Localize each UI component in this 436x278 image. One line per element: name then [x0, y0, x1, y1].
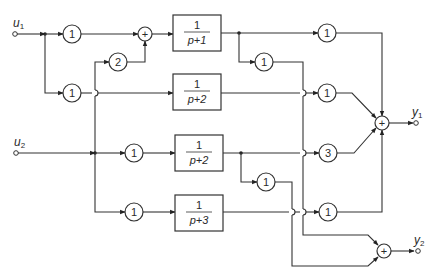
svg-text:p+1: p+1 [187, 34, 207, 46]
sum-junction-y2: + [377, 244, 391, 258]
input-label-u1: u1 [13, 16, 25, 31]
output-y2: y2 [413, 233, 425, 253]
input-terminal-u2 [14, 151, 19, 156]
svg-text:3: 3 [325, 147, 331, 159]
svg-text:1: 1 [196, 139, 202, 151]
wire-hop [303, 90, 306, 96]
svg-text:1: 1 [69, 28, 75, 40]
sum-junction-y1: + [375, 116, 389, 130]
svg-text:1: 1 [194, 19, 200, 31]
wire [127, 41, 145, 62]
wire [337, 128, 376, 153]
gain-block2-y1: 1 [318, 84, 336, 102]
wire [45, 34, 63, 93]
gain-block3-y1: 3 [319, 144, 337, 162]
wire [292, 215, 378, 266]
input-u1: u1 [13, 16, 25, 36]
wire [95, 62, 109, 90]
svg-text:1: 1 [194, 78, 200, 90]
gain-u2-sum: 2 [109, 53, 127, 71]
svg-text:1: 1 [196, 199, 202, 211]
sum-junction-input: + [138, 27, 152, 41]
wire [95, 153, 125, 212]
svg-text:1: 1 [131, 206, 137, 218]
gain-u1-block2: 1 [63, 84, 81, 102]
wire-hop [292, 209, 295, 215]
wire [275, 182, 292, 209]
block-1: 1 p+1 [173, 15, 221, 51]
gain-block1-y2: 1 [255, 53, 273, 71]
svg-text:p+2: p+2 [189, 154, 209, 166]
plus-icon: + [381, 245, 387, 257]
svg-text:1: 1 [263, 176, 269, 188]
svg-text:1: 1 [261, 56, 267, 68]
gain-block3-y2: 1 [257, 173, 275, 191]
block-diagram: u1 1 + 2 1 u2 1 1 [0, 0, 436, 278]
svg-text:1: 1 [131, 147, 137, 159]
output-terminal-y1 [414, 121, 419, 126]
wire [239, 33, 255, 62]
block-2: 1 p+2 [173, 74, 221, 110]
gain-block1-y1: 1 [318, 24, 336, 42]
wire [337, 130, 382, 212]
svg-text:2: 2 [115, 56, 121, 68]
wire [336, 93, 376, 118]
plus-icon: + [379, 117, 385, 129]
gain-u1-sum: 1 [63, 25, 81, 43]
input-u2: u2 [14, 135, 26, 155]
block-3: 1 p+2 [175, 135, 223, 171]
gain-block4-y1: 1 [319, 203, 337, 221]
gain-u2-block3: 1 [125, 144, 143, 162]
wire [303, 215, 378, 245]
svg-text:p+2: p+2 [187, 93, 207, 105]
wire [241, 153, 257, 182]
svg-text:1: 1 [324, 87, 330, 99]
input-label-u2: u2 [14, 135, 26, 150]
output-label-y1: y1 [411, 105, 423, 120]
input-terminal-u1 [13, 32, 18, 37]
gain-u2-block4: 1 [125, 203, 143, 221]
svg-text:1: 1 [324, 27, 330, 39]
output-label-y2: y2 [413, 233, 425, 248]
output-terminal-y2 [416, 249, 421, 254]
output-y1: y1 [411, 105, 423, 125]
wire-hop [95, 90, 98, 96]
wire [336, 33, 382, 116]
wire-hop [303, 150, 306, 156]
svg-text:p+3: p+3 [189, 214, 210, 226]
wire [273, 62, 303, 90]
svg-text:1: 1 [325, 206, 331, 218]
plus-icon: + [142, 28, 148, 40]
wire-hop [303, 209, 306, 215]
block-4: 1 p+3 [175, 195, 223, 231]
svg-text:1: 1 [69, 87, 75, 99]
